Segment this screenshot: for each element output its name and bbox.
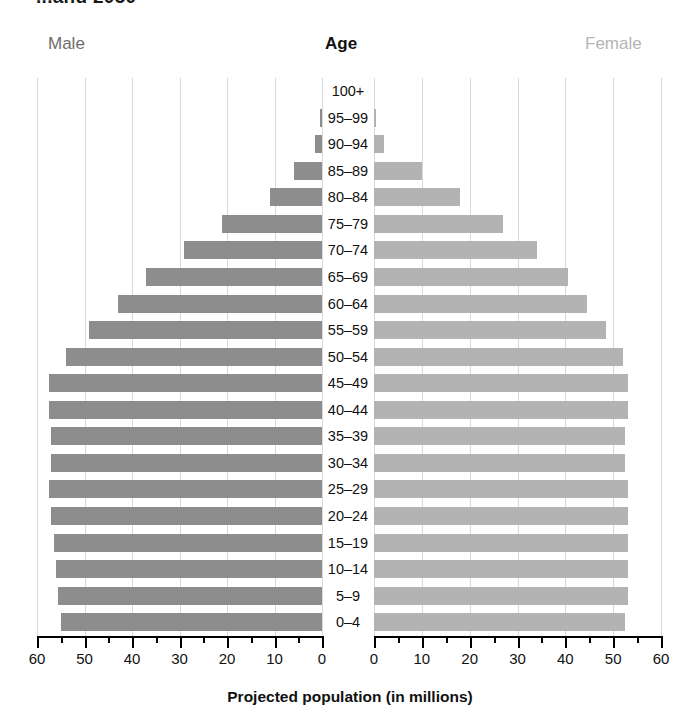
axis-tick-40 (132, 636, 134, 648)
x-axis-label: Projected population (in millions) (0, 688, 700, 706)
age-group-label: 95–99 (322, 105, 374, 132)
bar-row (37, 291, 322, 318)
axis-tick-10 (275, 636, 277, 648)
age-label-column: 100+95–9990–9485–8980–8475–7970–7465–696… (322, 78, 374, 636)
bar-male-40–44 (49, 401, 322, 419)
bar-male-20–24 (51, 507, 322, 525)
axis-tick-35 (156, 636, 158, 643)
bar-row (37, 450, 322, 477)
bar-row (37, 158, 322, 185)
axis-tick-label: 0 (318, 650, 326, 667)
bar-female-90–94 (374, 135, 384, 153)
axis-tick-30 (180, 636, 182, 648)
bar-row (374, 211, 661, 238)
bar-female-5–9 (374, 587, 628, 605)
bar-male-85–89 (294, 162, 323, 180)
age-group-label: 40–44 (322, 397, 374, 424)
age-group-label: 60–64 (322, 291, 374, 318)
bar-row (37, 264, 322, 291)
age-group-label: 70–74 (322, 237, 374, 264)
axis-tick-label: 0 (370, 650, 378, 667)
axis-tick-label: 40 (557, 650, 574, 667)
axis-tick-5 (398, 636, 400, 643)
age-group-label: 65–69 (322, 264, 374, 291)
age-group-label: 30–34 (322, 450, 374, 477)
bar-female-80–84 (374, 188, 460, 206)
axis-tick-25 (494, 636, 496, 643)
bar-female-25–29 (374, 480, 628, 498)
gridline-60 (661, 78, 662, 636)
age-group-label: 0–4 (322, 609, 374, 636)
bar-row (37, 476, 322, 503)
axis-tick-label: 30 (509, 650, 526, 667)
chart-title-clipped: ...and 2050 (36, 0, 136, 4)
axis-tick-30 (518, 636, 520, 648)
female-plot-area (374, 78, 661, 636)
bar-row (37, 317, 322, 344)
bar-row (374, 397, 661, 424)
bar-male-30–34 (51, 454, 322, 472)
bar-row (37, 423, 322, 450)
age-group-label: 100+ (322, 78, 374, 105)
bar-row (374, 583, 661, 610)
axis-tick-20 (227, 636, 229, 648)
axis-tick-0 (322, 636, 324, 648)
bar-female-85–89 (374, 162, 422, 180)
age-group-label: 35–39 (322, 423, 374, 450)
bar-row (374, 158, 661, 185)
age-group-label: 90–94 (322, 131, 374, 158)
age-group-label: 10–14 (322, 556, 374, 583)
bar-row (37, 503, 322, 530)
bar-female-60–64 (374, 295, 587, 313)
bar-row (374, 503, 661, 530)
bar-row (374, 450, 661, 477)
male-header-label: Male (48, 34, 85, 54)
bar-male-25–29 (49, 480, 322, 498)
axis-tick-60 (661, 636, 663, 648)
bar-row (374, 370, 661, 397)
bar-male-15–19 (54, 534, 322, 552)
bar-row (37, 397, 322, 424)
axis-tick-45 (589, 636, 591, 643)
age-group-label: 80–84 (322, 184, 374, 211)
bar-row (374, 476, 661, 503)
bar-male-75–79 (222, 215, 322, 233)
axis-tick-label: 10 (266, 650, 283, 667)
axis-tick-label: 60 (653, 650, 670, 667)
population-pyramid-chart: ...and 2050 Male Age Female 100+95–9990–… (0, 0, 700, 724)
bar-row (37, 211, 322, 238)
bar-row (374, 237, 661, 264)
bar-male-55–59 (89, 321, 322, 339)
age-group-label: 55–59 (322, 317, 374, 344)
axis-tick-35 (541, 636, 543, 643)
bar-row (374, 317, 661, 344)
bar-female-20–24 (374, 507, 628, 525)
bar-row (37, 131, 322, 158)
axis-tick-label: 40 (124, 650, 141, 667)
bar-male-65–69 (146, 268, 322, 286)
bar-female-75–79 (374, 215, 503, 233)
axis-tick-label: 30 (171, 650, 188, 667)
axis-tick-10 (422, 636, 424, 648)
axis-tick-15 (446, 636, 448, 643)
bar-row (374, 344, 661, 371)
axis-tick-40 (565, 636, 567, 648)
axis-tick-label: 50 (76, 650, 93, 667)
bar-row (37, 184, 322, 211)
axis-tick-55 (61, 636, 63, 643)
bar-male-80–84 (270, 188, 322, 206)
bar-row (37, 530, 322, 557)
bar-female-55–59 (374, 321, 606, 339)
age-group-label: 50–54 (322, 344, 374, 371)
bar-row (374, 530, 661, 557)
male-bar-rows (37, 78, 322, 636)
age-group-label: 85–89 (322, 158, 374, 185)
bar-male-70–74 (184, 241, 322, 259)
bar-male-60–64 (118, 295, 322, 313)
age-group-label: 15–19 (322, 530, 374, 557)
bar-row (374, 291, 661, 318)
bar-row (37, 105, 322, 132)
axis-tick-55 (637, 636, 639, 643)
bar-female-30–34 (374, 454, 625, 472)
axis-tick-50 (85, 636, 87, 648)
